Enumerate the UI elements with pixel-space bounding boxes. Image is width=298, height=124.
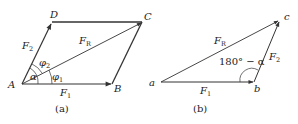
- label-point-a: A: [7, 79, 15, 90]
- label-fr-a: FR: [78, 35, 92, 48]
- label-angle-180-minus-alpha: 180° − α: [219, 56, 265, 67]
- label-point-b: B: [113, 83, 121, 94]
- side-bc: [112, 22, 142, 84]
- label-f1-a: F1: [59, 87, 71, 100]
- vector-fr-a: [22, 23, 141, 84]
- force-parallelogram-figure: A B C D F2 FR F1 α φ2 φ1 (a) a b c FR F2…: [0, 0, 298, 124]
- label-point-a-lower: a: [149, 77, 155, 88]
- label-fr-b: FR: [213, 35, 227, 48]
- label-f2-a: F2: [21, 40, 33, 53]
- label-point-b-lower: b: [254, 83, 260, 94]
- label-point-c-lower: c: [284, 11, 290, 22]
- caption-a: (a): [55, 103, 69, 114]
- label-point-d: D: [49, 9, 58, 20]
- label-f2-b: F2: [268, 51, 280, 64]
- label-f1-b: F1: [199, 85, 211, 98]
- label-phi1: φ1: [52, 71, 63, 84]
- label-phi2: φ2: [39, 57, 50, 70]
- diagram-b: a b c FR F2 F1 180° − α (b): [149, 11, 290, 114]
- label-point-c: C: [144, 11, 152, 22]
- label-alpha: α: [30, 71, 37, 82]
- caption-b: (b): [193, 103, 207, 114]
- diagram-a: A B C D F2 FR F1 α φ2 φ1 (a): [7, 9, 152, 114]
- vector-fr-b: [161, 21, 278, 82]
